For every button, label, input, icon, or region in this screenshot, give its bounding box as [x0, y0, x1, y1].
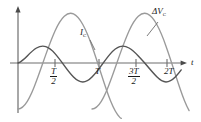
- curve-label-delta-vc-main: ΔV: [152, 6, 163, 16]
- tick-label-three-halves-T: 3T 2: [128, 67, 140, 86]
- y-axis: [15, 6, 20, 113]
- tick-label-two-T: 2T: [164, 67, 174, 76]
- tick-label-half-T: T 2: [50, 67, 57, 86]
- leader-line-delta-vc: [147, 22, 158, 36]
- curve-label-ic: IC: [80, 28, 86, 37]
- curve-label-ic-sub: C: [83, 33, 86, 38]
- y-axis-arrow-icon: [15, 6, 20, 12]
- curve-label-delta-vc-sub: C: [163, 12, 166, 17]
- tick-label-half-T-denominator: 2: [50, 76, 57, 86]
- tick-label-T: T: [95, 67, 100, 76]
- tick-label-three-halves-T-numerator: 3T: [128, 67, 140, 76]
- x-axis-arrow-icon: [181, 60, 187, 65]
- tick-label-three-halves-T-denominator: 2: [128, 76, 140, 86]
- curve-delta-vc-cont: [92, 13, 189, 110]
- waveform-figure: t IC ΔVC T 2 T 3T 2 2T: [0, 0, 201, 122]
- curve-label-delta-vc: ΔVC: [152, 7, 166, 16]
- curve-delta-vc: [18, 13, 121, 118]
- plot-canvas: [0, 0, 201, 122]
- x-axis-label: t: [191, 58, 194, 67]
- tick-label-half-T-numerator: T: [50, 67, 57, 76]
